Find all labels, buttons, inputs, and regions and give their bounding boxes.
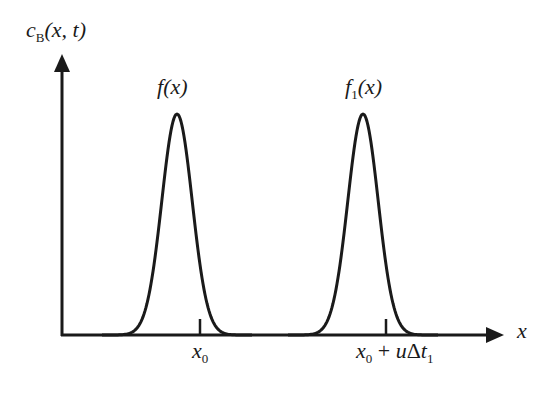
y-axis-label: cB(x, t)	[26, 19, 86, 44]
curve-label-f-x: f(x)	[157, 76, 188, 98]
y-axis-label-symbol: c	[26, 17, 36, 42]
diagram-canvas	[0, 0, 559, 399]
tick-label-x0-sub: 0	[202, 351, 209, 366]
y-axis-label-args: (x, t)	[44, 17, 86, 42]
x-axis-arrow-icon	[486, 327, 504, 343]
curve-label-f1-x-args: (x)	[358, 74, 382, 99]
curve-label-f-x-args: (x)	[163, 74, 187, 99]
tick-label-2-delta: Δ	[407, 338, 421, 363]
x-axis-label: x	[517, 320, 527, 342]
tick-label-x0-plus-u-dt1: x0 + uΔt1	[356, 340, 433, 365]
diagram-figure: cB(x, t) f(x) f1(x) x x0 x0 + uΔt1	[0, 0, 559, 399]
tick-label-x0-var: x	[192, 338, 202, 363]
tick-label-2-plus: +	[372, 338, 395, 363]
curve-f1-x	[288, 114, 438, 335]
tick-label-x0: x0	[192, 340, 208, 365]
tick-label-2-var: x	[356, 338, 366, 363]
curve-f-x	[102, 114, 252, 335]
y-axis-arrow-icon	[54, 54, 70, 72]
curve-label-f1-x: f1(x)	[345, 76, 382, 101]
tick-label-2-t-sub: 1	[427, 351, 434, 366]
tick-label-2-u: u	[396, 338, 407, 363]
